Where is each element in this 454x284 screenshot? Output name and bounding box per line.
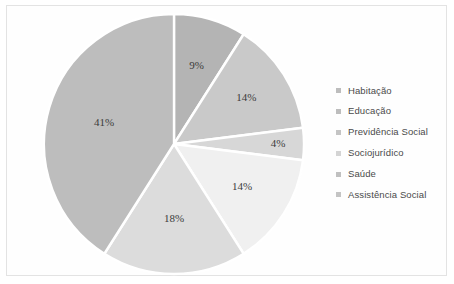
square-marker-icon	[336, 88, 341, 93]
pie-slice-label: 41%	[94, 116, 114, 128]
pie-slice-label: 14%	[236, 91, 256, 103]
legend-item-label: Educação	[348, 106, 391, 116]
chart-area: 9%14%4%14%18%41% HabitaçãoEducaçãoPrevid…	[0, 0, 454, 284]
pie-chart: 9%14%4%14%18%41%	[40, 10, 308, 278]
legend-item-label: Habitação	[348, 86, 392, 96]
legend-item[interactable]: Habitação	[336, 80, 448, 101]
square-marker-icon	[336, 130, 341, 135]
pie-slices-group	[44, 14, 304, 274]
legend-item[interactable]: Sociojurídico	[336, 142, 448, 163]
legend-item[interactable]: Previdência Social	[336, 122, 448, 143]
square-marker-icon	[336, 151, 341, 156]
pie-slice-label: 9%	[189, 59, 204, 71]
square-marker-icon	[336, 172, 341, 177]
legend-item[interactable]: Educação	[336, 101, 448, 122]
legend-item-label: Previdência Social	[348, 127, 428, 137]
pie-slice-label: 4%	[271, 137, 286, 149]
legend-item[interactable]: Saúde	[336, 163, 448, 184]
legend-item[interactable]: Assistência Social	[336, 184, 448, 205]
square-marker-icon	[336, 109, 341, 114]
legend-item-label: Sociojurídico	[348, 148, 404, 158]
pie-slice-label: 18%	[164, 212, 184, 224]
pie-slice-label: 14%	[232, 180, 252, 192]
chart-legend: HabitaçãoEducaçãoPrevidência SocialSocio…	[336, 80, 448, 205]
pie-chart-page: 9%14%4%14%18%41% HabitaçãoEducaçãoPrevid…	[0, 0, 454, 284]
legend-item-label: Assistência Social	[348, 190, 426, 200]
square-marker-icon	[336, 192, 341, 197]
legend-item-label: Saúde	[348, 169, 376, 179]
